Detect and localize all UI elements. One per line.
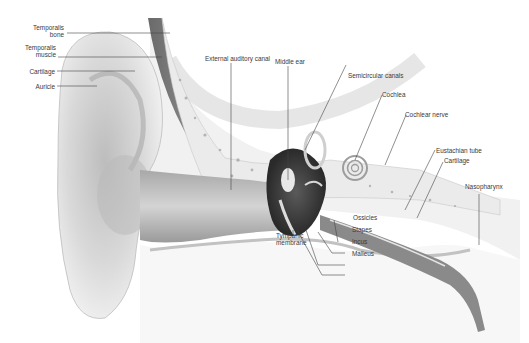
label-tympanic-membrane: Tympanic membrane [276, 232, 307, 246]
label-malleus: Malleus [352, 250, 374, 257]
label-text: muscle [14, 51, 56, 58]
label-text: Tympanic [276, 232, 307, 239]
middle-ear-shape [266, 149, 326, 236]
ear-illustration [0, 0, 529, 343]
label-text: membrane [276, 239, 307, 246]
label-text: bone [20, 31, 64, 38]
label-external-auditory-canal: External auditory canal [205, 55, 270, 62]
label-cartilage-right: Cartilage [444, 157, 470, 164]
label-temporalis-muscle: Temporalis muscle [14, 44, 56, 58]
label-stapes: Stapes [352, 226, 372, 233]
label-temporalis-bone: Temporalis bone [20, 24, 64, 38]
label-auricle: Auricle [14, 83, 55, 90]
label-cochlea: Cochlea [382, 91, 405, 98]
label-incus: Incus [352, 238, 367, 245]
label-cartilage-left: Cartilage [14, 68, 55, 75]
label-nasopharynx: Nasopharynx [465, 183, 503, 190]
label-text: Temporalis [20, 24, 64, 31]
ear-anatomy-diagram: Temporalis bone Temporalis muscle Cartil… [0, 0, 529, 343]
label-semicircular-canals: Semicircular canals [348, 72, 403, 79]
label-ossicles: Ossicles [353, 214, 377, 221]
label-middle-ear: Middle ear [275, 58, 305, 65]
label-cochlear-nerve: Cochlear nerve [405, 111, 448, 118]
label-text: Temporalis [14, 44, 56, 51]
label-eustachian-tube: Eustachian tube [436, 147, 482, 154]
